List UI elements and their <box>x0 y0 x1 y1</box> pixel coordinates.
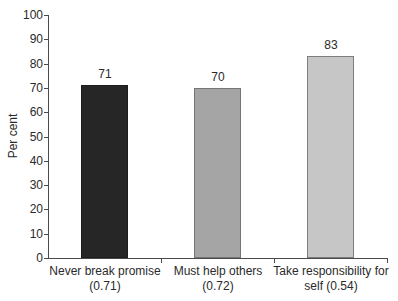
y-tick <box>44 209 48 210</box>
y-tick <box>44 39 48 40</box>
bar-value-label: 83 <box>301 38 361 52</box>
y-tick-label: 0 <box>13 251 43 265</box>
y-tick-label: 50 <box>13 130 43 144</box>
y-tick-label: 30 <box>13 178 43 192</box>
y-tick <box>44 15 48 16</box>
y-tick <box>44 64 48 65</box>
y-tick <box>44 258 48 259</box>
x-category-label: Must help others (0.72) <box>158 264 278 294</box>
x-category-label: Take responsibility for self (0.54) <box>271 264 391 294</box>
x-tick <box>161 259 162 263</box>
y-tick <box>44 112 48 113</box>
x-tick <box>387 259 388 263</box>
bar <box>194 88 241 258</box>
y-tick-label: 70 <box>13 81 43 95</box>
y-tick-label: 20 <box>13 202 43 216</box>
y-tick <box>44 161 48 162</box>
y-tick-label: 90 <box>13 32 43 46</box>
x-category-label: Never break promise (0.71) <box>45 264 165 294</box>
bar <box>307 56 354 258</box>
bar-chart: Per cent 010203040506070809010071Never b… <box>0 0 398 301</box>
bar <box>81 85 128 258</box>
y-tick-label: 100 <box>13 8 43 22</box>
y-axis-line <box>48 15 49 258</box>
x-axis-line <box>48 258 388 259</box>
y-tick-label: 10 <box>13 227 43 241</box>
y-tick <box>44 234 48 235</box>
y-tick <box>44 88 48 89</box>
bar-value-label: 71 <box>75 67 135 81</box>
y-tick <box>44 185 48 186</box>
bar-value-label: 70 <box>188 70 248 84</box>
x-tick <box>274 259 275 263</box>
y-tick <box>44 137 48 138</box>
y-tick-label: 60 <box>13 105 43 119</box>
y-tick-label: 80 <box>13 57 43 71</box>
y-tick-label: 40 <box>13 154 43 168</box>
